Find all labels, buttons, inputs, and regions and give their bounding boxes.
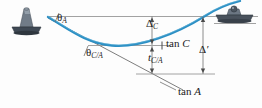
theta-a-subscript: A bbox=[62, 16, 67, 25]
label-delta-c: ΔC bbox=[146, 18, 158, 31]
label-theta-ca: θC/A bbox=[86, 47, 103, 60]
label-t-ca: tC/A bbox=[148, 52, 163, 65]
tan-a-leader-line bbox=[160, 82, 176, 90]
pin-support-a bbox=[12, 8, 41, 36]
figure-canvas bbox=[0, 0, 262, 108]
delta-c-subscript: C bbox=[153, 22, 158, 31]
label-tan-a: tan A bbox=[178, 86, 201, 97]
tan-a-function: tan bbox=[178, 85, 191, 97]
label-delta-prime: Δ′ bbox=[199, 44, 208, 55]
elastic-curve bbox=[48, 1, 240, 46]
elastic-curve-highlight bbox=[48, 0, 240, 45]
delta-prime-mark: ′ bbox=[206, 43, 208, 55]
label-theta-a: θA bbox=[57, 12, 67, 25]
theta-ca-subscript: C/A bbox=[91, 51, 103, 60]
t-ca-subscript: C/A bbox=[151, 56, 163, 65]
tan-c-point: C bbox=[182, 37, 189, 49]
label-tan-c: tan C bbox=[166, 38, 190, 49]
tan-a-point: A bbox=[194, 85, 201, 97]
tan-c-function: tan bbox=[166, 37, 179, 49]
beam-deflection-figure: θA θC/A ΔC tan C tC/A Δ′ tan A bbox=[0, 0, 262, 108]
